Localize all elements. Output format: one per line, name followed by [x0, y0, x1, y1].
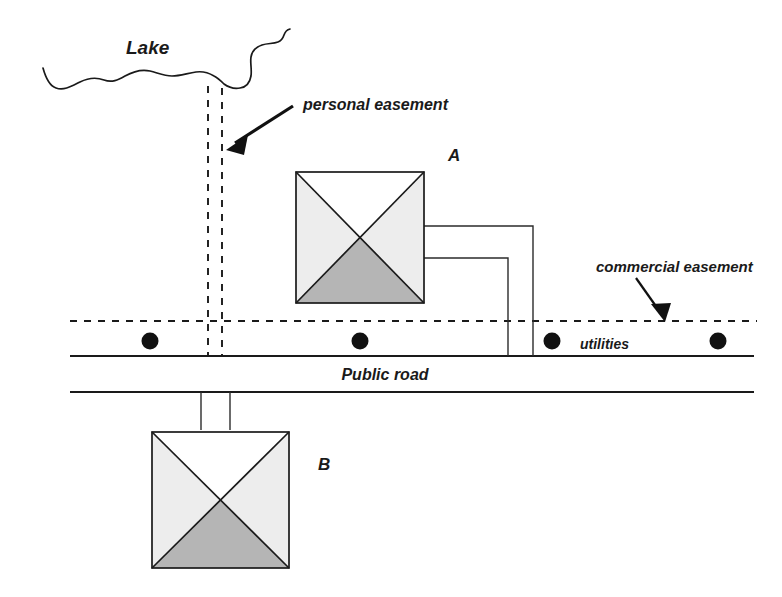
house-a-label: A: [447, 146, 460, 165]
house-b-label: B: [318, 455, 330, 474]
utility-pole-3: [544, 333, 561, 350]
house-a-driveway-inner: [424, 258, 508, 356]
commercial-easement-label: commercial easement: [596, 258, 754, 275]
utilities-label: utilities: [580, 336, 629, 352]
personal-easement-label: personal easement: [302, 96, 449, 113]
house-a: [296, 172, 424, 303]
commercial-easement-arrow-icon: [636, 278, 671, 322]
utility-pole-1: [142, 333, 159, 350]
diagram-canvas: Lake personal easement commercial easeme…: [0, 0, 782, 597]
easement-diagram: Lake personal easement commercial easeme…: [0, 0, 782, 597]
house-b: [152, 432, 289, 568]
house-a-driveway-outer: [424, 226, 533, 356]
utility-pole-4: [710, 333, 727, 350]
lake-label: Lake: [126, 37, 170, 58]
utility-pole-2: [352, 333, 369, 350]
personal-easement-arrow-icon: [226, 106, 293, 155]
public-road-label: Public road: [341, 366, 429, 383]
